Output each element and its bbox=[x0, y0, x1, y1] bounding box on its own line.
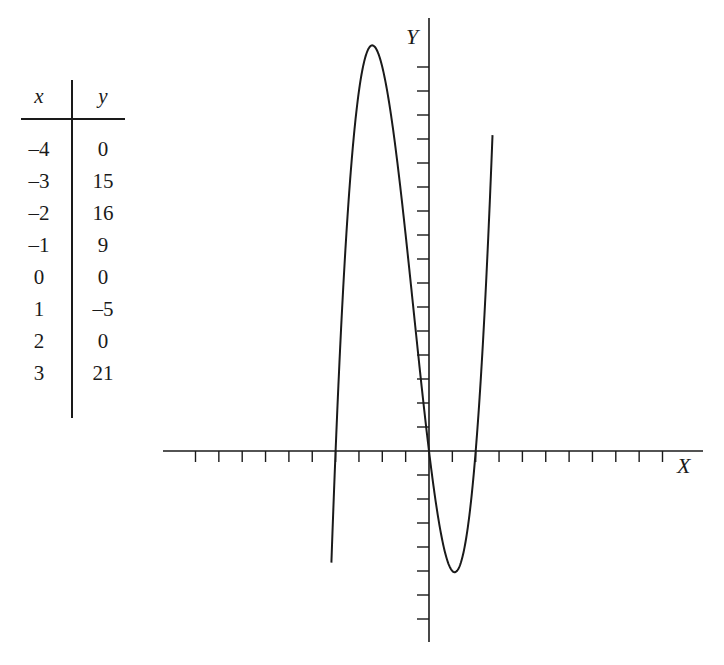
y-axis-ticks bbox=[417, 67, 429, 619]
x-axis-label: X bbox=[676, 453, 692, 478]
y-axis-label: Y bbox=[406, 24, 421, 49]
function-curve bbox=[331, 45, 492, 572]
axes bbox=[163, 18, 703, 642]
cubic-function-graph: Y X bbox=[0, 0, 724, 665]
